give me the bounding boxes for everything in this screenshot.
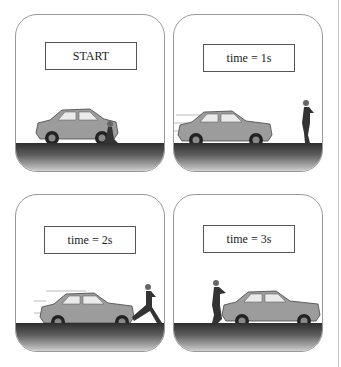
car-and-runner-scene [174,195,323,352]
runner-icon [132,284,162,325]
car-icon [222,291,320,328]
page-edge-divider [338,0,339,367]
panel-time-2s: time = 2s [15,194,165,352]
panel-start: START [15,14,165,172]
panel-time-1s: time = 1s [173,14,323,172]
car-and-runner-scene [16,15,165,172]
car-icon [178,111,272,147]
runner-icon [302,100,314,143]
car-and-runner-scene [16,195,165,352]
panel-time-3s: time = 3s [173,194,323,352]
car-and-runner-scene [174,15,323,172]
